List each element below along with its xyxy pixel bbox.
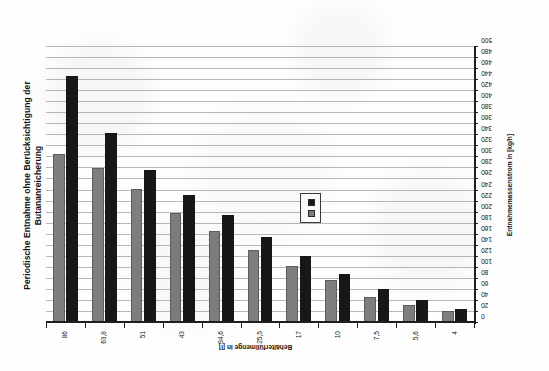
category-axis-label: 4 (451, 331, 458, 335)
category-axis-tick (124, 323, 125, 328)
value-axis-tick (474, 57, 478, 58)
value-axis-tick-label: 380 (481, 103, 492, 110)
value-axis-tick (474, 300, 478, 301)
gridline (46, 68, 474, 69)
chart-legend (300, 193, 321, 223)
plot-area (46, 47, 474, 323)
value-axis-tick-label: 120 (481, 247, 492, 254)
value-axis-tick-label: 500 (481, 37, 492, 44)
category-axis-tick (46, 323, 47, 328)
category-axis-label: 10 (334, 331, 341, 338)
value-axis-tick-label: 300 (481, 147, 492, 154)
value-axis-tick-label: 280 (481, 158, 492, 165)
bar-serie-2-63-8 (105, 133, 117, 323)
value-axis-tick (474, 134, 478, 135)
value-axis-tick-label: 200 (481, 203, 492, 210)
category-axis-label: 51 (139, 331, 146, 338)
value-axis-tick (474, 167, 478, 168)
bar-serie-1-25-5 (248, 250, 260, 323)
category-axis-title: Behälterfüllmenge in [l] (176, 344, 336, 351)
bar-serie-2-17 (300, 256, 312, 323)
bar-serie-2-86 (66, 76, 78, 323)
category-axis-label: 7,5 (373, 331, 380, 340)
category-axis-label: 86 (61, 331, 68, 338)
bar-serie-2-25-5 (261, 237, 273, 323)
bar-serie-2-34-6 (222, 215, 234, 323)
category-axis-tick (279, 323, 280, 328)
bar-serie-2-10 (339, 274, 351, 323)
category-axis-tick (163, 323, 164, 328)
category-axis-label: 25,5 (256, 331, 263, 344)
bar-serie-1-43 (170, 213, 182, 323)
category-axis-tick (357, 323, 358, 328)
legend-item-series-1 (307, 210, 315, 217)
bar-serie-2-51 (144, 170, 156, 323)
gridline (46, 79, 474, 80)
category-axis-tick (85, 323, 86, 328)
gridline (46, 57, 474, 58)
value-axis-tick-label: 0 (481, 313, 485, 320)
category-axis-label: 34,6 (217, 331, 224, 344)
bar-serie-2-7-5 (378, 289, 390, 323)
gridline (46, 46, 474, 47)
bar-serie-1-34-6 (209, 231, 221, 323)
value-axis-tick-label: 220 (481, 192, 492, 199)
category-axis-label: 63,8 (100, 331, 107, 344)
value-axis-tick-label: 20 (481, 302, 488, 309)
category-axis-label: 5,6 (412, 331, 419, 340)
category-axis-line (46, 321, 475, 323)
value-axis-tick (474, 145, 478, 146)
bar-serie-1-10 (325, 280, 337, 323)
value-axis-tick (474, 90, 478, 91)
bar-serie-2-43 (183, 196, 195, 324)
bar-serie-1-86 (53, 154, 65, 323)
category-axis-tick (396, 323, 397, 328)
category-axis-label: 17 (295, 331, 302, 338)
gridline (46, 101, 474, 102)
value-axis-tick (474, 245, 478, 246)
value-axis-tick-label: 40 (481, 291, 488, 298)
gridline (46, 112, 474, 113)
scanned-chart-page: Periodische Entnahme ohne Berücksichtigu… (0, 0, 549, 371)
value-axis-tick (474, 201, 478, 202)
value-axis-tick (474, 68, 478, 69)
value-axis-tick (474, 234, 478, 235)
value-axis-tick-label: 460 (481, 59, 492, 66)
bar-chart-figure: Periodische Entnahme ohne Berücksichtigu… (0, 0, 549, 371)
bar-serie-1-63-8 (92, 168, 104, 323)
category-axis-tick (241, 323, 242, 328)
value-axis-tick (474, 190, 478, 191)
category-axis-label: 43 (178, 331, 185, 338)
value-axis-tick (474, 101, 478, 102)
category-axis-tick (435, 323, 436, 328)
value-axis-tick-label: 260 (481, 169, 492, 176)
bar-serie-1-5-6 (403, 305, 415, 323)
chart-title: Periodische Entnahme ohne Berücksichtigu… (22, 0, 44, 371)
legend-swatch-series-1 (308, 210, 315, 217)
category-axis-tick (202, 323, 203, 328)
value-axis-tick (474, 123, 478, 124)
gridline (46, 90, 474, 91)
value-axis-tick (474, 256, 478, 257)
value-axis-tick (474, 311, 478, 312)
bar-serie-1-17 (286, 266, 298, 323)
value-axis-line (474, 46, 476, 324)
value-axis-tick-label: 80 (481, 269, 488, 276)
chart-title-line-2: Butananreicherung (33, 0, 44, 371)
value-axis-tick-label: 360 (481, 114, 492, 121)
value-axis-tick-label: 340 (481, 125, 492, 132)
value-axis-tick-label: 100 (481, 258, 492, 265)
value-axis-tick (474, 156, 478, 157)
chart-title-line-1: Periodische Entnahme ohne Berücksichtigu… (22, 0, 33, 371)
value-axis-tick-label: 320 (481, 136, 492, 143)
value-axis-tick-label: 180 (481, 214, 492, 221)
value-axis-tick-label: 140 (481, 236, 492, 243)
gridline (46, 123, 474, 124)
value-axis-title: Entnahmemassenstrom in [kg/h] (506, 47, 513, 323)
value-axis-tick (474, 112, 478, 113)
value-axis-tick (474, 223, 478, 224)
bar-serie-1-51 (131, 189, 143, 323)
chart-rotation-wrapper: Periodische Entnahme ohne Berücksichtigu… (0, 0, 549, 371)
value-axis-tick-label: 440 (481, 70, 492, 77)
value-axis-tick-label: 240 (481, 181, 492, 188)
